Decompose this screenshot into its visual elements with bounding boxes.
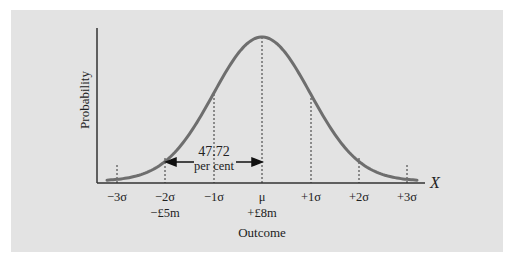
tick-sublabel-mu: +£8m bbox=[247, 207, 276, 220]
x-axis-label: Outcome bbox=[238, 226, 286, 239]
annotation-unit: per cent bbox=[194, 160, 234, 173]
tick-label-plus-3-sigma: +3σ bbox=[397, 191, 417, 204]
tick-label-minus-1-sigma: −1σ bbox=[204, 191, 224, 204]
tick-label-minus-3-sigma: −3σ bbox=[107, 191, 127, 204]
tick-label-mu: μ bbox=[259, 191, 266, 204]
tick-label-plus-2-sigma: +2σ bbox=[349, 191, 369, 204]
sigma-dashed-lines bbox=[117, 37, 407, 183]
x-axis-variable: X bbox=[430, 174, 440, 192]
tick-label-minus-2-sigma: −2σ bbox=[155, 191, 175, 204]
annotation-label: 47.72 per cent bbox=[194, 145, 234, 173]
tick-label-plus-1-sigma: +1σ bbox=[301, 191, 321, 204]
annotation-value: 47.72 bbox=[194, 145, 234, 160]
tick-sublabel-minus-2-sigma: −£5m bbox=[150, 207, 179, 220]
y-axis-label: Probability bbox=[77, 71, 93, 129]
